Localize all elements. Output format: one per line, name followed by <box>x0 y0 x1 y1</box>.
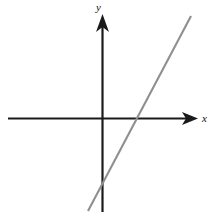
coordinate-plane-figure: x y <box>0 0 214 219</box>
graph-canvas: x y <box>0 0 214 219</box>
y-axis-label: y <box>95 1 101 13</box>
x-axis-label: x <box>201 112 207 124</box>
